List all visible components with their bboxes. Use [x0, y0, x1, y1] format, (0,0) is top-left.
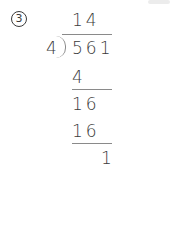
step-subtrahend-1: 4: [72, 69, 86, 86]
subtraction-line-2: [72, 143, 112, 144]
dividend: 561: [72, 40, 113, 57]
division-bracket-icon: [56, 36, 66, 58]
remainder: 1: [101, 150, 115, 167]
step-partial-dividend: 16: [72, 96, 100, 113]
problem-number-badge: 3: [11, 11, 27, 27]
division-overline: [62, 34, 112, 35]
page-edge-artifact: [148, 0, 170, 4]
quotient: 14: [72, 12, 100, 29]
step-subtrahend-2: 16: [72, 123, 100, 140]
subtraction-line-1: [72, 89, 112, 90]
